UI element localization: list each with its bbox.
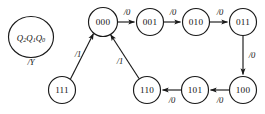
edge-label-010-011: /0 bbox=[216, 7, 224, 17]
fsm-graph: Q2Q1Q0 /Y 000 001 01 bbox=[0, 0, 265, 114]
state-label: 000 bbox=[96, 17, 111, 27]
state-label: 010 bbox=[189, 17, 204, 27]
legend-group: Q2Q1Q0 /Y bbox=[9, 17, 54, 67]
legend-state-label: Q2Q1Q0 bbox=[17, 33, 46, 43]
state-node-101[interactable]: 101 bbox=[182, 77, 209, 104]
state-node-100[interactable]: 100 bbox=[230, 77, 257, 104]
state-label: 111 bbox=[55, 85, 69, 95]
edge-label-001-010: /0 bbox=[169, 7, 177, 17]
state-node-111[interactable]: 111 bbox=[49, 77, 76, 104]
state-node-110[interactable]: 110 bbox=[134, 77, 161, 104]
edge-label-111-000: /1 bbox=[74, 49, 82, 59]
legend-output-label: /Y bbox=[26, 57, 35, 67]
edge-label-011-100: /0 bbox=[248, 50, 256, 60]
state-label: 101 bbox=[188, 85, 203, 95]
state-node-011[interactable]: 011 bbox=[230, 9, 257, 36]
state-label: 001 bbox=[143, 17, 158, 27]
state-label: 100 bbox=[236, 85, 251, 95]
state-node-001[interactable]: 001 bbox=[137, 9, 164, 36]
state-label: 110 bbox=[140, 85, 154, 95]
edge-label-110-000: /1 bbox=[116, 56, 124, 66]
state-node-000[interactable]: 000 bbox=[89, 8, 118, 37]
state-diagram-canvas: Q2Q1Q0 /Y 000 001 01 bbox=[0, 0, 265, 114]
edge-label-100-101: /0 bbox=[216, 95, 224, 105]
state-label: 011 bbox=[236, 17, 250, 27]
edge-label-101-110: /0 bbox=[168, 95, 176, 105]
edge-110-to-000 bbox=[111, 35, 140, 79]
state-node-010[interactable]: 010 bbox=[183, 9, 210, 36]
edge-label-000-001: /0 bbox=[123, 7, 131, 17]
